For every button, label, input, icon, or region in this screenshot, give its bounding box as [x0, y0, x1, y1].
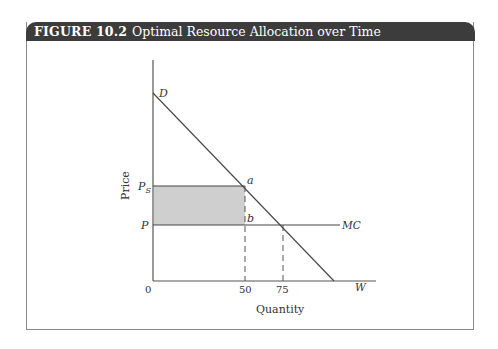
label-ps: PS: [137, 180, 151, 195]
chart: D a b MC W P PS 0 50 75 Quantity Price: [0, 0, 498, 349]
shaded-rent-area: [154, 186, 245, 225]
tick-50: 50: [239, 284, 252, 295]
label-p: P: [140, 219, 149, 232]
tick-0: 0: [145, 284, 151, 295]
y-axis-label: Price: [119, 171, 132, 200]
label-mc: MC: [341, 219, 361, 231]
label-w: W: [355, 281, 367, 293]
label-b: b: [247, 212, 254, 225]
tick-75: 75: [276, 284, 289, 295]
label-a: a: [247, 174, 254, 187]
label-d: D: [158, 87, 168, 100]
x-axis-label: Quantity: [256, 303, 305, 316]
